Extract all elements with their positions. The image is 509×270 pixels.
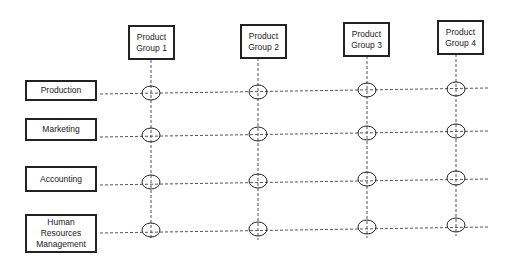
product-group-label: Product [137,32,166,42]
department-label: Human Resources [41,217,82,238]
product-group-label: Product [249,31,278,41]
product-group-label: Product [352,29,381,39]
department-production-box: Production [25,80,97,101]
horizontal-line-marketing [100,131,488,137]
department-marketing-box: Marketing [25,118,97,141]
product-group-label: Group 2 [248,42,279,52]
department-label: Accounting [40,174,82,185]
product-group-label: Group 4 [445,38,476,48]
product-group-3-box: ProductGroup 3 [343,22,390,57]
department-label: Marketing [42,124,79,135]
department-label: Management [36,239,86,249]
department-accounting-box: Accounting [25,166,97,192]
product-group-label: Product [446,27,475,37]
product-group-4-box: ProductGroup 4 [437,20,484,55]
product-group-label: Group 3 [351,40,382,50]
product-group-label: Group 1 [136,43,167,53]
product-group-1-box: ProductGroup 1 [128,25,175,60]
intersection-node [447,171,465,185]
product-group-2-box: ProductGroup 2 [240,24,287,59]
department-hr-box: Human ResourcesManagement [25,214,97,253]
horizontal-line-hr [100,227,488,233]
department-label: Production [41,85,82,96]
horizontal-line-accounting [100,179,488,185]
